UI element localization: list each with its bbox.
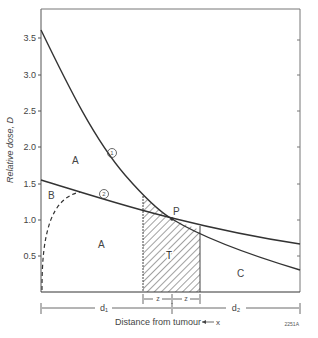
point-p-marker: [170, 217, 174, 221]
dose-chart: 3.5 3.0 2.5 2.0 1.5 1.0 0.5 Relative dos…: [0, 0, 318, 338]
z-right-label: z: [184, 295, 188, 302]
ytick-1.0: 1.0: [23, 215, 36, 225]
curve-1-label: 1: [110, 150, 114, 156]
region-a-bottom: A: [98, 239, 105, 250]
ytick-2.5: 2.5: [23, 106, 36, 116]
d2-label: d₂: [232, 303, 241, 313]
ytick-3.0: 3.0: [23, 70, 36, 80]
y-axis-title: Relative dose, D: [5, 116, 15, 183]
ytick-3.5: 3.5: [23, 33, 36, 43]
ytick-1.5: 1.5: [23, 179, 36, 189]
dashed-boundary-curve: [42, 192, 80, 290]
z-left-label: z: [156, 295, 160, 302]
region-b: B: [48, 190, 55, 201]
ytick-2.0: 2.0: [23, 142, 36, 152]
region-t: T: [166, 250, 172, 261]
region-a-top: A: [72, 155, 79, 166]
x-axis-title: Distance from tumour: [115, 317, 201, 327]
z-dimension: [143, 294, 200, 304]
curve-2-label: 2: [102, 191, 106, 197]
d1-label: d₁: [100, 303, 108, 313]
point-p-label: P: [173, 206, 180, 217]
x-variable-label: x: [216, 318, 220, 327]
tumour-region-shaded: [143, 196, 200, 292]
figure-id: 2251A: [285, 321, 300, 327]
d-dimension: [41, 303, 300, 314]
x-direction-arrow-icon: [202, 320, 214, 324]
ytick-0.5: 0.5: [23, 251, 36, 261]
region-c: C: [237, 268, 244, 279]
